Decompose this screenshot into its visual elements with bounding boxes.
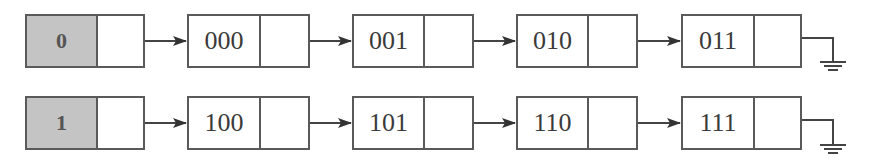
pointer-cell <box>425 16 472 66</box>
pointer-cell <box>98 16 143 66</box>
list-node: 100 <box>187 96 310 150</box>
head-node-label: 1 <box>27 98 98 148</box>
node-label: 110 <box>518 98 589 148</box>
head-node-label: 0 <box>27 16 98 66</box>
pointer-cell <box>755 16 800 66</box>
pointer-cell <box>261 16 308 66</box>
pointer-cell <box>261 98 308 148</box>
list-node: 001 <box>352 14 474 68</box>
head-node-0: 0 <box>25 14 145 68</box>
list-row-0: 0 000 001 010 011 <box>0 14 873 70</box>
node-label: 000 <box>189 16 261 66</box>
list-node: 101 <box>352 96 474 150</box>
node-label: 100 <box>189 98 261 148</box>
pointer-cell <box>98 98 143 148</box>
pointer-cell <box>589 16 636 66</box>
head-node-1: 1 <box>25 96 145 150</box>
list-node: 000 <box>187 14 310 68</box>
list-node: 111 <box>681 96 802 150</box>
list-node: 011 <box>681 14 802 68</box>
list-row-1: 1 100 101 110 111 <box>0 96 873 152</box>
pointer-cell <box>755 98 800 148</box>
pointer-cell <box>589 98 636 148</box>
pointer-cell <box>425 98 472 148</box>
node-label: 111 <box>683 98 755 148</box>
node-label: 001 <box>354 16 425 66</box>
list-node: 110 <box>516 96 638 150</box>
list-node: 010 <box>516 14 638 68</box>
node-label: 011 <box>683 16 755 66</box>
node-label: 010 <box>518 16 589 66</box>
node-label: 101 <box>354 98 425 148</box>
